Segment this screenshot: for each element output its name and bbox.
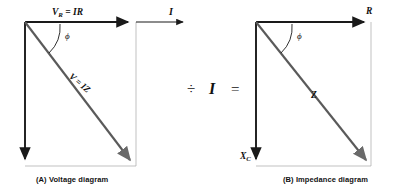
panel-a-vc-label: VC = IXC bbox=[0, 84, 12, 120]
figure-canvas: VR = IR I VC = IXC V = IZ ϕ (A) Voltage … bbox=[0, 0, 408, 195]
panel-a-phi-label: ϕ bbox=[65, 32, 70, 41]
panel-b-r-label: R bbox=[366, 7, 372, 17]
panel-a-caption: (A) Voltage diagram bbox=[36, 175, 108, 184]
divide-operator: ÷ bbox=[187, 82, 195, 97]
panel-b-phi-label: ϕ bbox=[297, 32, 302, 41]
panel-a-v-resultant bbox=[25, 22, 130, 160]
panel-a-vr-label: VR = IR bbox=[52, 8, 83, 19]
panel-a-current-label: I bbox=[169, 7, 173, 17]
panel-b-caption: (B) Impedance diagram bbox=[283, 175, 368, 184]
panel-b-z-label: Z bbox=[311, 91, 317, 101]
panel-b-phi-arc bbox=[281, 24, 292, 53]
panel-b-xc-label: XC bbox=[240, 152, 251, 163]
vector-diagram-graphics bbox=[0, 0, 408, 195]
equals-operator: = bbox=[231, 82, 239, 97]
current-operator: I bbox=[209, 81, 215, 97]
panel-a-phi-arc bbox=[49, 24, 60, 53]
